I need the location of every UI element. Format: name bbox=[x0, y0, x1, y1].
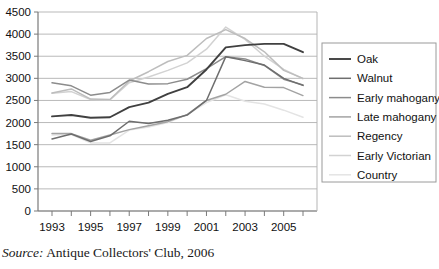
y-axis-tick-label: 0 bbox=[25, 205, 31, 217]
line-chart-figure: 050010001500200025003000350040004500 199… bbox=[0, 0, 439, 240]
x-axis-tick-label: 1993 bbox=[39, 221, 65, 233]
chart-legend: OakWalnutEarly mahoganyLate mahoganyRege… bbox=[322, 43, 439, 182]
x-axis-ticks bbox=[52, 211, 303, 216]
legend-label-oak: Oak bbox=[357, 53, 378, 65]
x-axis-tick-labels: 1993199519971999200120032005 bbox=[39, 221, 296, 233]
x-axis-tick-label: 1995 bbox=[78, 221, 104, 233]
legend-label-country: Country bbox=[357, 169, 398, 181]
source-text: Antique Collectors' Club, 2006 bbox=[46, 245, 214, 260]
legend-label-walnut: Walnut bbox=[357, 72, 393, 84]
chart-canvas: 050010001500200025003000350040004500 199… bbox=[0, 0, 439, 240]
source-caption: Source: Antique Collectors' Club, 2006 bbox=[2, 243, 332, 265]
x-axis-tick-label: 2001 bbox=[194, 221, 220, 233]
legend-label-early-victorian: Early Victorian bbox=[357, 150, 431, 162]
y-axis-tick-label: 3000 bbox=[5, 72, 31, 84]
x-axis-tick-label: 1999 bbox=[155, 221, 181, 233]
y-axis-tick-label: 4500 bbox=[5, 6, 31, 18]
y-axis-tick-label: 2500 bbox=[5, 94, 31, 106]
y-axis-tick-label: 3500 bbox=[5, 50, 31, 62]
x-axis-tick-label: 2003 bbox=[232, 221, 258, 233]
y-axis-tick-label: 2000 bbox=[5, 117, 31, 129]
x-axis-tick-label: 2005 bbox=[271, 221, 297, 233]
legend-label-late-mahogany: Late mahogany bbox=[357, 111, 437, 123]
y-axis-tick-label: 1000 bbox=[5, 161, 31, 173]
y-axis-tick-label: 500 bbox=[12, 183, 31, 195]
y-axis-tick-label: 1500 bbox=[5, 139, 31, 151]
plot-background bbox=[38, 12, 317, 211]
legend-label-early-mahogany: Early mahogany bbox=[357, 92, 439, 104]
chart-figure-root: 050010001500200025003000350040004500 199… bbox=[0, 0, 439, 269]
source-label: Source: bbox=[2, 245, 43, 260]
y-axis-tick-labels: 050010001500200025003000350040004500 bbox=[5, 6, 31, 217]
legend-label-regency: Regency bbox=[357, 130, 403, 142]
x-axis-tick-label: 1997 bbox=[116, 221, 142, 233]
y-axis-tick-label: 4000 bbox=[5, 28, 31, 40]
